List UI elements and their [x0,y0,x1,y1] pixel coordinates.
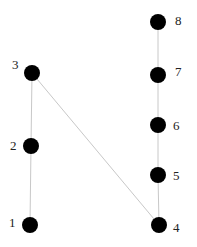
edge-3-4 [32,73,159,225]
edge-1-2 [30,146,31,225]
node-4: 4 [151,217,180,235]
node-6: 6 [150,117,180,133]
edge-2-3 [31,73,32,146]
node-circle [151,217,167,233]
node-circle [150,67,166,83]
edges-layer [30,22,159,225]
node-3: 3 [12,57,40,81]
graph-diagram: 12345678 [0,0,197,247]
node-label: 4 [173,220,180,235]
node-2: 2 [10,138,39,154]
node-label: 6 [173,118,180,133]
node-circle [23,138,39,154]
node-8: 8 [150,13,182,30]
nodes-layer: 12345678 [9,13,182,235]
node-circle [24,65,40,81]
node-circle [150,14,166,30]
node-7: 7 [150,64,182,83]
node-label: 3 [12,57,19,72]
node-label: 2 [10,138,17,153]
node-label: 7 [175,64,182,79]
node-1: 1 [9,215,38,233]
node-circle [150,167,166,183]
node-circle [22,217,38,233]
node-label: 1 [9,215,16,230]
node-label: 8 [175,13,182,28]
node-circle [150,117,166,133]
node-label: 5 [173,168,180,183]
node-5: 5 [150,167,180,183]
